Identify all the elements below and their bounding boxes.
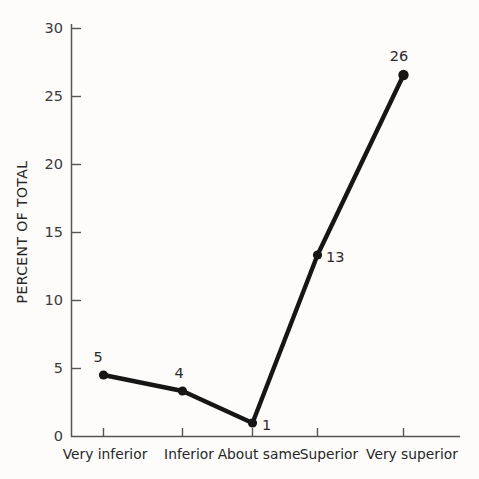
line-chart-figure: 30 25 20 15 10 5 0 PERCENT OF TOTAL Very…: [0, 0, 479, 479]
data-markers: [99, 70, 409, 428]
y-axis-tick-labels: 30 25 20 15 10 5 0: [45, 20, 63, 444]
chart-axes: [72, 24, 461, 437]
chart-canvas: 30 25 20 15 10 5 0 PERCENT OF TOTAL Very…: [0, 0, 479, 479]
data-label-inferior: 4: [174, 365, 183, 381]
data-label-about-same: 1: [262, 417, 271, 433]
y-tick-label-25: 25: [45, 88, 63, 104]
data-label-very-inferior: 5: [93, 349, 102, 365]
x-label-about-same: About same: [218, 446, 301, 462]
x-axis-category-labels: Very inferior Inferior About same Superi…: [63, 446, 459, 462]
data-point-labels: 5 4 1 13 26: [93, 48, 408, 433]
y-tick-label-15: 15: [45, 224, 63, 240]
data-series-line: [104, 75, 404, 423]
data-label-very-superior: 26: [390, 48, 408, 64]
data-point-inferior: [178, 386, 187, 395]
y-tick-label-20: 20: [45, 156, 63, 172]
data-point-very-inferior: [99, 370, 108, 379]
data-point-superior: [313, 250, 322, 259]
y-tick-label-30: 30: [45, 20, 63, 36]
y-tick-label-10: 10: [45, 292, 63, 308]
x-label-inferior: Inferior: [164, 446, 214, 462]
data-label-superior: 13: [326, 249, 344, 265]
x-label-superior: Superior: [300, 446, 359, 462]
y-tick-label-0: 0: [54, 428, 63, 444]
x-label-very-superior: Very superior: [366, 446, 458, 462]
data-point-very-superior: [398, 70, 408, 80]
x-label-very-inferior: Very inferior: [63, 446, 148, 462]
y-tick-label-5: 5: [54, 360, 63, 376]
y-axis-ticks: [72, 29, 82, 369]
y-axis-title: PERCENT OF TOTAL: [14, 161, 30, 304]
data-point-about-same: [248, 418, 257, 427]
x-axis-ticks: [104, 428, 404, 437]
